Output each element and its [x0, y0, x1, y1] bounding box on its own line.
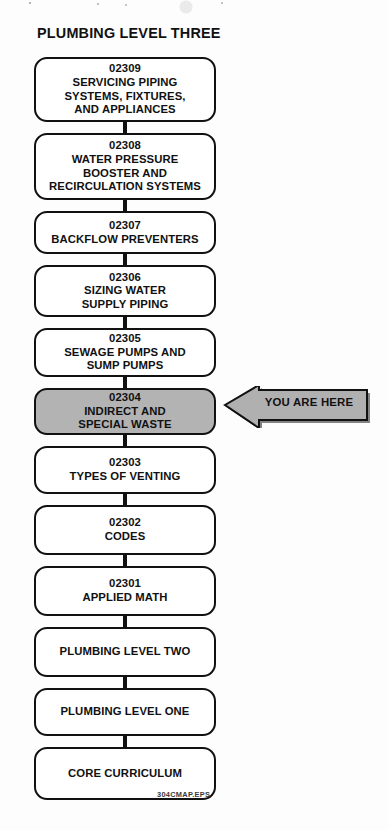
node-title-line: BACKFLOW PREVENTERS	[51, 233, 199, 247]
flowchart-node-wrap: PLUMBING LEVEL TWO	[34, 616, 216, 677]
left-arrow-icon	[221, 386, 371, 428]
node-title-line: CODES	[105, 530, 146, 544]
node-title-line: SUPPLY PIPING	[82, 298, 169, 312]
node-code: 02304	[109, 391, 141, 405]
node-title-line: AND APPLIANCES	[74, 103, 175, 117]
node-code: 02302	[109, 516, 141, 530]
flowchart-node[interactable]: PLUMBING LEVEL TWO	[34, 627, 216, 677]
flowchart-node-wrap: 02307BACKFLOW PREVENTERS	[34, 200, 216, 254]
node-title-line: SYSTEMS, FIXTURES,	[64, 90, 185, 104]
node-code: 02305	[109, 332, 141, 346]
flow-connector	[123, 616, 127, 627]
flow-connector	[123, 200, 127, 211]
flow-connector	[123, 435, 127, 446]
node-title-line: SIZING WATER	[84, 284, 166, 298]
flowchart-node[interactable]: 02307BACKFLOW PREVENTERS	[34, 211, 216, 254]
node-title-line: APPLIED MATH	[82, 591, 167, 605]
flowchart-node[interactable]: PLUMBING LEVEL ONE	[34, 688, 216, 736]
scan-artifact	[0, 0, 388, 14]
flow-connector	[123, 555, 127, 566]
figure-source-code: 304CMAP.EPS	[157, 790, 210, 799]
flowchart-node[interactable]: 02306SIZING WATERSUPPLY PIPING	[34, 265, 216, 317]
page-title: PLUMBING LEVEL THREE	[37, 25, 221, 41]
node-title-line: RECIRCULATION SYSTEMS	[49, 180, 201, 194]
flowchart-node-wrap: 02309SERVICING PIPINGSYSTEMS, FIXTURES,A…	[34, 57, 216, 122]
node-title-line: SPECIAL WASTE	[78, 418, 171, 432]
flow-connector	[123, 254, 127, 265]
node-code: 02307	[109, 219, 141, 233]
flowchart-node-wrap: 02302CODES	[34, 494, 216, 555]
node-code: 02301	[109, 577, 141, 591]
flowchart-node-wrap: PLUMBING LEVEL ONE	[34, 677, 216, 736]
node-code: 02309	[109, 62, 141, 76]
you-are-here-callout: YOU ARE HERE	[221, 386, 371, 428]
flow-connector	[123, 736, 127, 747]
flowchart-node[interactable]: 02308WATER PRESSUREBOOSTER ANDRECIRCULAT…	[34, 133, 216, 200]
node-title-line: WATER PRESSURE	[72, 153, 179, 167]
flow-connector	[123, 377, 127, 388]
flowchart-node-wrap: 02308WATER PRESSUREBOOSTER ANDRECIRCULAT…	[34, 122, 216, 200]
flowchart-node-wrap: 02306SIZING WATERSUPPLY PIPING	[34, 254, 216, 317]
node-title-line: BOOSTER AND	[83, 167, 167, 181]
flow-connector	[123, 494, 127, 505]
flow-connector	[123, 317, 127, 328]
flowchart-node[interactable]: 02301APPLIED MATH	[34, 566, 216, 616]
flowchart-node[interactable]: 02302CODES	[34, 505, 216, 555]
node-title-line: SERVICING PIPING	[73, 76, 178, 90]
flowchart-node-wrap: 02303TYPES OF VENTING	[34, 435, 216, 494]
node-title-line: SEWAGE PUMPS AND	[64, 346, 186, 360]
flow-connector	[123, 122, 127, 133]
flowchart-node-wrap: 02304INDIRECT ANDSPECIAL WASTE	[34, 377, 216, 435]
node-code: 02303	[109, 456, 141, 470]
node-code: 02306	[109, 271, 141, 285]
node-code: 02308	[109, 139, 141, 153]
flowchart-node-current[interactable]: 02304INDIRECT ANDSPECIAL WASTE	[34, 388, 216, 435]
flowchart-node-wrap: 02305SEWAGE PUMPS ANDSUMP PUMPS	[34, 317, 216, 377]
course-map-flowchart: 02309SERVICING PIPINGSYSTEMS, FIXTURES,A…	[34, 57, 216, 800]
node-title-line: CORE CURRICULUM	[68, 767, 182, 781]
flowchart-node[interactable]: 02303TYPES OF VENTING	[34, 446, 216, 494]
node-title-line: SUMP PUMPS	[87, 359, 164, 373]
node-title-line: TYPES OF VENTING	[70, 470, 181, 484]
node-title-line: PLUMBING LEVEL ONE	[60, 705, 189, 719]
flow-connector	[123, 677, 127, 688]
node-title-line: PLUMBING LEVEL TWO	[60, 645, 191, 659]
flowchart-node-wrap: 02301APPLIED MATH	[34, 555, 216, 616]
flowchart-node[interactable]: 02305SEWAGE PUMPS ANDSUMP PUMPS	[34, 328, 216, 377]
node-title-line: INDIRECT AND	[84, 405, 166, 419]
flowchart-node[interactable]: 02309SERVICING PIPINGSYSTEMS, FIXTURES,A…	[34, 57, 216, 122]
